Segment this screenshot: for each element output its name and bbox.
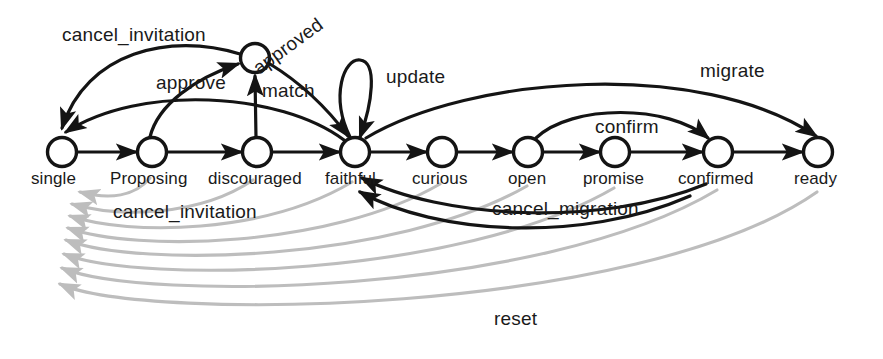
state-node-discouraged[interactable]: [243, 138, 272, 167]
state-label-promise: promise: [583, 169, 644, 189]
state-label-confirmed: confirmed: [678, 169, 754, 189]
reset-edges-group: [60, 178, 817, 305]
state-label-open: open: [508, 169, 546, 189]
state-node-ready[interactable]: [804, 138, 833, 167]
edge-match: [255, 76, 256, 138]
state-label-discouraged: discouraged: [208, 169, 302, 189]
state-label-curious: curious: [412, 169, 468, 189]
state-label-ready: ready: [794, 169, 837, 189]
edge-label-approve: approve: [156, 72, 226, 94]
state-node-proposing[interactable]: [138, 138, 167, 167]
state-node-curious[interactable]: [428, 138, 457, 167]
edge-label-cancel-invitation-top: cancel_invitation: [62, 24, 206, 46]
state-label-single: single: [31, 169, 76, 189]
state-node-confirmed[interactable]: [704, 138, 733, 167]
state-machine-diagram: single Proposing discouraged faithful cu…: [0, 0, 883, 359]
edge-label-migrate: migrate: [700, 60, 765, 82]
edge-label-match: match: [262, 80, 315, 102]
edge-label-confirm: confirm: [595, 116, 659, 138]
edge-label-update: update: [386, 66, 445, 88]
state-node-faithful[interactable]: [341, 138, 370, 167]
state-label-faithful: faithful: [325, 169, 376, 189]
state-node-promise[interactable]: [601, 138, 630, 167]
state-label-proposing: Proposing: [110, 169, 187, 189]
edge-migrate: [366, 84, 816, 138]
state-node-open[interactable]: [514, 138, 543, 167]
edge-label-cancel-migration: cancel_migration: [492, 198, 639, 220]
edge-label-reset: reset: [494, 308, 537, 330]
edge-label-cancel-invitation-bottom: cancel_invitation: [113, 201, 257, 223]
edge-cancel-invitation-faithful: [66, 100, 344, 140]
edge-update-selfloop: [340, 60, 371, 137]
state-node-single[interactable]: [48, 138, 77, 167]
